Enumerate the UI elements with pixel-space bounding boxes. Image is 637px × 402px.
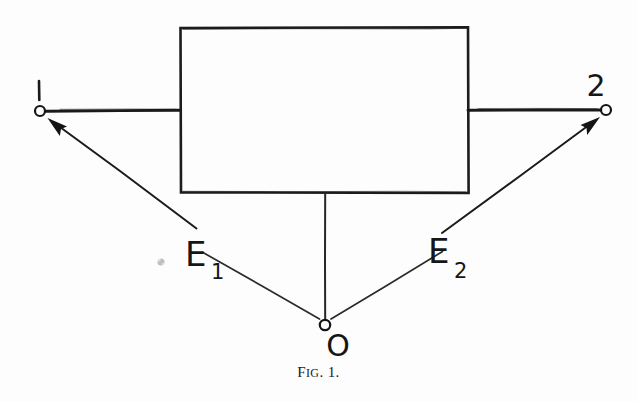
- ink-smudge-artifact: [157, 258, 165, 266]
- label-source-e2-letter: E: [428, 231, 449, 271]
- label-source-e1: E 1: [185, 234, 224, 284]
- arrow-e1-to-terminal-1: [48, 118, 197, 229]
- label-source-e2-subscript: 2: [454, 259, 467, 283]
- figure-page: 2 O E 1 E 2 FIG. 1.: [0, 0, 637, 402]
- connector-o-to-e2: [331, 252, 443, 320]
- lead-left: [46, 109, 180, 111]
- black-box-network: [181, 27, 469, 193]
- arrow-e2-shaft: [442, 124, 591, 234]
- lead-left-line: [46, 110, 180, 111]
- figure-diagram: 2 O E 1 E 2: [0, 0, 637, 402]
- caption-prefix: F: [297, 364, 306, 380]
- label-source-e1-subscript: 1: [211, 260, 224, 284]
- arrow-e2-to-terminal-2: [442, 117, 600, 233]
- terminal-1[interactable]: [35, 106, 45, 116]
- arrow-e2-head: [581, 117, 601, 135]
- lead-right: [468, 108, 601, 110]
- terminal-2-circle[interactable]: [601, 105, 611, 115]
- black-box-bottom-texture: [183, 191, 466, 192]
- arrow-e1-shaft: [57, 125, 197, 229]
- label-terminal-o: O: [326, 328, 350, 363]
- caption-suffix: . 1.: [319, 364, 339, 380]
- figure-caption: FIG. 1.: [0, 364, 637, 381]
- label-source-e2: E 2: [428, 231, 467, 283]
- caption-smallcaps: IG: [306, 366, 319, 380]
- black-box-outline: [181, 27, 469, 193]
- terminal-1-circle[interactable]: [35, 106, 45, 116]
- arrow-e1-head: [48, 118, 68, 136]
- terminal-2[interactable]: [601, 105, 611, 115]
- label-source-e1-letter: E: [185, 234, 206, 274]
- label-terminal-2: 2: [586, 68, 605, 103]
